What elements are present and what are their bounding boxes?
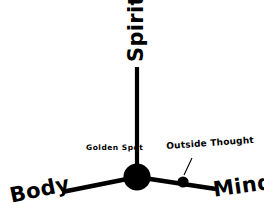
outside-thought-leader-line (184, 158, 192, 175)
diagram-canvas: Spirit Body Mind Golden Spot Outside Tho… (0, 0, 264, 224)
outside-thought-node (177, 176, 188, 187)
node-label-golden-spot: Golden Spot (86, 144, 143, 152)
golden-spot-node (123, 163, 150, 190)
axis-label-spirit: Spirit (126, 0, 147, 62)
